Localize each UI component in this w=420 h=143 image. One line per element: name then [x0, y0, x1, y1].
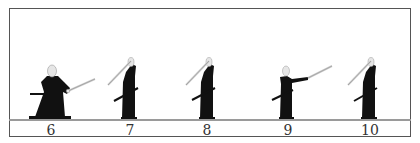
step-label-6: 6	[36, 122, 66, 138]
figure-step-6	[29, 65, 95, 119]
step-label-9: 9	[273, 122, 303, 138]
step-label-10: 10	[355, 122, 385, 138]
figure-step-7	[108, 58, 138, 120]
figure-step-10	[348, 58, 377, 120]
step-label-8: 8	[192, 122, 222, 138]
figure-step-8	[186, 58, 215, 120]
ground-line	[9, 119, 411, 121]
figure-step-9	[272, 66, 332, 119]
step-label-7: 7	[115, 122, 145, 138]
